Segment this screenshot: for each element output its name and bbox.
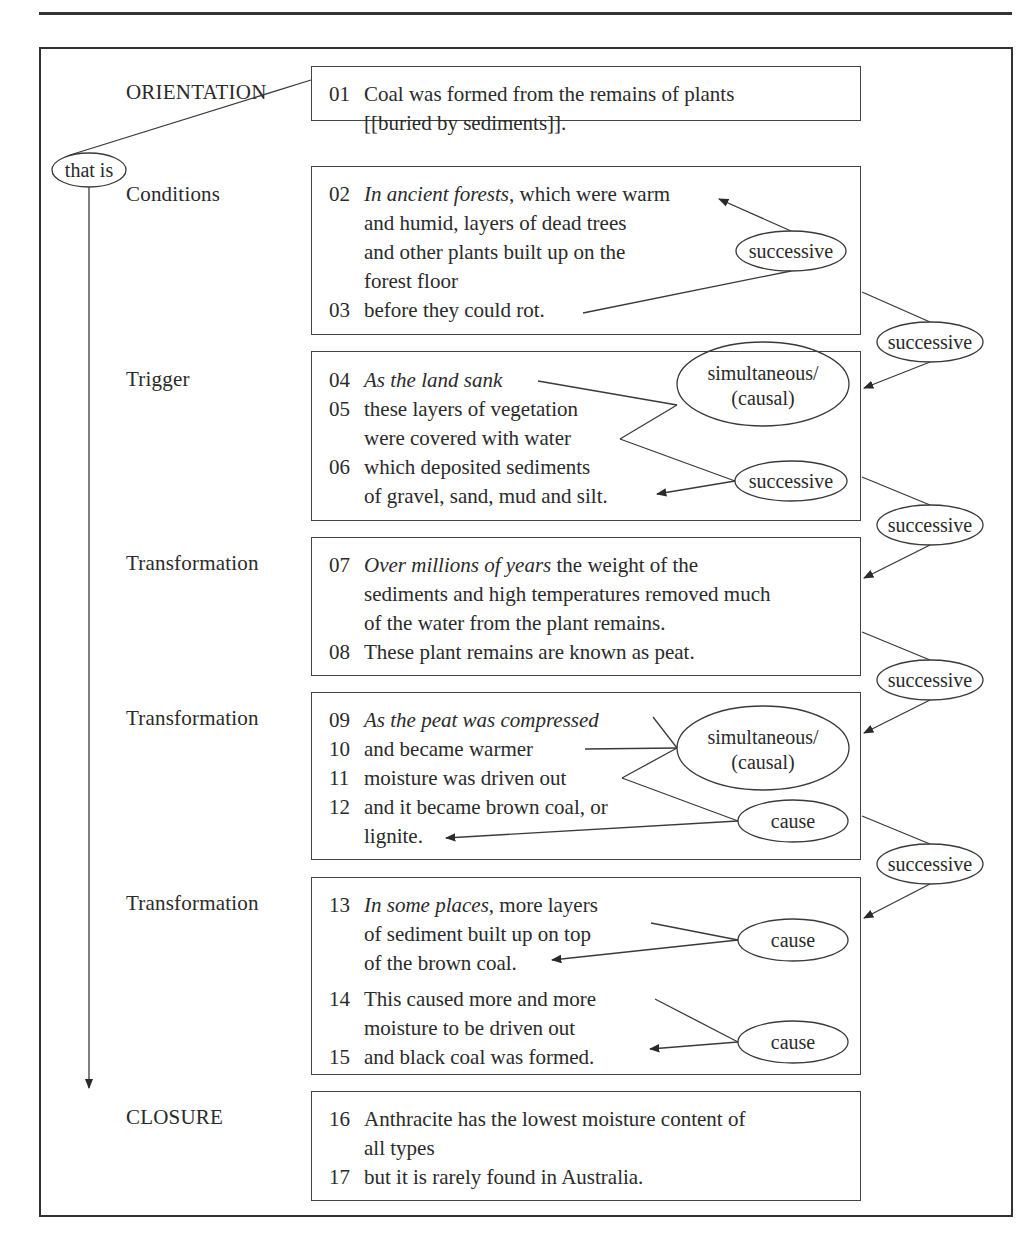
relation-label: cause (771, 929, 816, 951)
relation-label: simultaneous/ (707, 362, 819, 384)
relation-line-from-05 (620, 405, 677, 439)
relation-label: simultaneous/ (707, 726, 819, 748)
relation-arrow-to-12 (446, 821, 738, 838)
relation-arrow-to-06 (657, 481, 735, 494)
relation-line-from-05b (620, 439, 735, 481)
relation-line-from-03 (583, 271, 791, 313)
relation-label: (causal) (731, 751, 794, 774)
outer-line-1-top (862, 292, 930, 322)
relation-ellipse-simultaneous-09-10 (677, 706, 849, 790)
outer-arrow-2 (864, 545, 930, 578)
outer-line-3-top (862, 632, 930, 660)
relation-arrow-to-13b (552, 940, 738, 960)
relation-label: successive (749, 240, 834, 262)
outer-relation-label: successive (888, 331, 973, 353)
relation-line-from-04 (538, 381, 677, 405)
outer-relation-label: successive (888, 514, 973, 536)
outer-line-4-top (862, 816, 930, 844)
relation-arrow-to-02 (719, 199, 791, 231)
relation-line-from-10 (585, 748, 677, 749)
relation-line-from-11 (622, 748, 677, 778)
relation-label: cause (771, 810, 816, 832)
relation-label: successive (749, 470, 834, 492)
relation-line-from-14 (655, 999, 738, 1042)
outer-relation-label: successive (888, 853, 973, 875)
relation-line-from-09 (653, 717, 677, 748)
outer-line-2-top (862, 477, 930, 505)
relations-overlay: that is successive simultaneous/ (causal… (0, 0, 1033, 1245)
relation-line-from-13 (651, 923, 738, 940)
orientation-link-line (70, 80, 311, 155)
outer-arrow-1 (864, 362, 930, 388)
relation-ellipse-simultaneous-04-05 (677, 342, 849, 426)
outer-arrow-3 (864, 700, 930, 733)
relation-label: cause (771, 1031, 816, 1053)
relation-label: (causal) (731, 387, 794, 410)
outer-relation-label: successive (888, 669, 973, 691)
relation-arrow-to-15 (650, 1042, 738, 1049)
that-is-label: that is (65, 159, 114, 181)
outer-arrow-4 (864, 884, 930, 918)
